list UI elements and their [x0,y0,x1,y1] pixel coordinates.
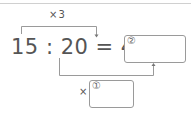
box-2-marker: ② [127,35,136,46]
bottom-multiplier-sign: × [79,86,87,97]
answer-box-1[interactable]: ① [89,80,134,108]
arrow-up-icon [152,63,156,66]
top-multiplier-label: ×3 [49,9,66,20]
answer-box-2[interactable]: ② [124,35,186,63]
box-1-marker: ① [92,80,101,91]
